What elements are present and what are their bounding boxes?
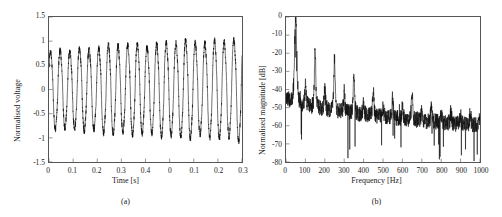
frequency-spectrum-trace: [286, 17, 480, 162]
y-tick-label: 0.5: [22, 61, 45, 69]
x-tick-label: 1000: [468, 167, 494, 175]
y-tick-label: -20: [259, 49, 282, 57]
y-tick-label: -10: [259, 30, 282, 38]
x-tick-label: 0: [35, 167, 61, 175]
panel-b: 0-10-20-30-40-50-60-70-80 01002003004005…: [251, 0, 502, 217]
y-tick-label: -80: [259, 159, 282, 167]
x-tick-label: 0.1: [59, 167, 85, 175]
figure-two-panel: 1.510.50-0.5-1-1.5 00.10.20.30.400.10.20…: [0, 0, 502, 217]
panel-a: 1.510.50-0.5-1-1.5 00.10.20.30.400.10.20…: [0, 0, 251, 217]
plot-area-frequency-domain: [285, 16, 481, 163]
y-tick-label: -0.5: [22, 110, 45, 118]
y-tick-label: 0: [22, 86, 45, 94]
subfigure-caption-a: (a): [0, 197, 251, 206]
x-axis-title-time: Time [s]: [0, 177, 251, 185]
y-tick-label: 1.5: [22, 12, 45, 20]
y-tick-label: -1.5: [22, 159, 45, 167]
time-domain-waveform: [49, 17, 242, 162]
y-axis-title-magnitude: Normalised magnitude [dB]: [259, 65, 267, 155]
waveform-trace: [49, 37, 242, 144]
x-tick-label: 0: [157, 167, 183, 175]
x-tick-label: 0.2: [84, 167, 110, 175]
subfigure-caption-b: (b): [251, 197, 502, 206]
x-tick-label: 0.2: [206, 167, 232, 175]
spectrum-trace: [286, 17, 480, 161]
x-tick-label: 0.3: [108, 167, 134, 175]
y-tick-label: -1: [22, 135, 45, 143]
x-tick-label: 0.4: [133, 167, 159, 175]
y-axis-title-voltage: Normalised voltage: [14, 79, 22, 142]
x-tick-label: 0.1: [181, 167, 207, 175]
plot-area-time-domain: [48, 16, 243, 163]
y-tick-label: 0: [259, 12, 282, 20]
x-axis-title-frequency: Frequency [Hz]: [251, 177, 502, 185]
y-tick-label: 1: [22, 37, 45, 45]
